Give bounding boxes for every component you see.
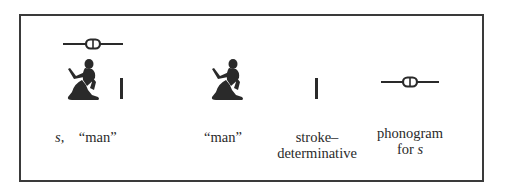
caption-stroke-line1: stroke– [268,129,366,145]
caption-man-only: “man” [204,129,242,145]
stroke-icon [315,78,318,99]
caption-stroke: stroke– determinative [268,129,366,161]
caption-man: “man” [79,129,117,145]
caption-italic-s: s, [55,129,64,145]
s-phonogram-icon [62,38,124,50]
s-phonogram-icon [380,76,440,88]
caption-phonogram: phonogram for s [368,125,452,157]
caption-combined: s, “man” [55,129,117,145]
caption-stroke-line2: determinative [268,145,366,161]
caption-phonogram-line2: for s [368,141,452,157]
caption-for: for [397,141,418,157]
seated-man-icon [64,58,104,102]
caption-italic-s: s [417,141,423,157]
caption-phonogram-line1: phonogram [368,125,452,141]
seated-man-icon [208,58,248,102]
stroke-icon [120,78,123,99]
